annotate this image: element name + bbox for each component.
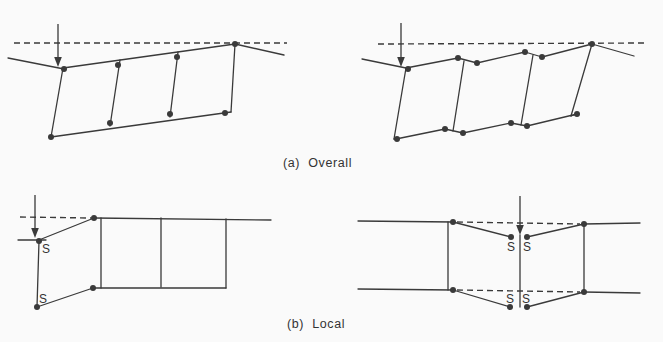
caption-local: (b) Local: [287, 317, 345, 331]
member-line: [571, 44, 592, 116]
member-line: [527, 224, 584, 237]
member-line: [51, 112, 231, 137]
hinge-label: S: [522, 292, 530, 306]
joint-dot: [91, 215, 97, 221]
joint-dot: [581, 289, 587, 295]
local-left-diagram: SS: [18, 195, 271, 310]
hinge-label: S: [523, 240, 531, 254]
member-line: [170, 52, 178, 117]
joint-dot: [589, 41, 595, 47]
joint-dot: [450, 219, 456, 225]
joint-dot: [61, 66, 67, 72]
member-line: [521, 55, 533, 125]
member-line: [453, 61, 464, 131]
joint-dot: [508, 120, 514, 126]
member-line: [527, 114, 577, 126]
member-line: [477, 52, 525, 63]
joint-dot: [107, 120, 113, 126]
joint-dot: [574, 111, 580, 117]
load-arrow-head: [397, 57, 405, 67]
member-line: [542, 44, 592, 57]
joint-dot: [115, 62, 121, 68]
load-arrow-head: [31, 228, 39, 238]
member-line: [39, 218, 94, 240]
load-arrow-head: [516, 225, 524, 235]
joint-dot: [450, 287, 456, 293]
joint-dot: [539, 54, 545, 60]
member-line: [358, 221, 453, 222]
joint-dot: [405, 66, 411, 72]
hinge-label: S: [506, 292, 514, 306]
joint-dot: [455, 55, 461, 61]
caption-overall: (a) Overall: [283, 156, 352, 170]
joint-dot: [174, 54, 180, 60]
reference-dashed-line: [20, 217, 91, 218]
member-line: [231, 44, 235, 112]
hinge-label: S: [42, 242, 50, 256]
joint-dot: [460, 130, 466, 136]
member-line: [453, 222, 511, 237]
member-line: [584, 292, 640, 293]
reference-dashed-line: [378, 43, 648, 44]
local-right-diagram: SSSS: [358, 196, 640, 310]
member-line: [94, 218, 271, 220]
joint-dot: [90, 285, 96, 291]
joint-dot: [522, 49, 528, 55]
joint-dot: [442, 126, 448, 132]
joint-dot: [48, 134, 54, 140]
member-line: [396, 129, 445, 139]
figure-canvas: SSSSSS: [0, 0, 663, 342]
joint-dot: [167, 111, 173, 117]
figure-page: SSSSSS (a) Overall (b) Local: [0, 0, 663, 342]
hinge-label: S: [39, 292, 47, 306]
member-line: [592, 44, 634, 56]
member-line: [394, 68, 406, 139]
member-line: [51, 68, 63, 137]
member-line: [63, 44, 235, 68]
joint-dot: [524, 123, 530, 129]
member-line: [235, 44, 284, 55]
member-line: [453, 290, 510, 307]
member-line: [584, 223, 640, 224]
reference-dashed-line: [457, 222, 580, 224]
overall-left-diagram: [8, 24, 287, 140]
joint-dot: [232, 41, 238, 47]
member-line: [463, 123, 511, 133]
load-arrow-head: [54, 57, 62, 67]
joint-dot: [581, 221, 587, 227]
overall-right-diagram: [362, 23, 648, 142]
member-line: [110, 60, 120, 126]
joint-dot: [394, 136, 400, 142]
member-line: [406, 58, 458, 68]
joint-dot: [474, 60, 480, 66]
member-line: [527, 292, 584, 307]
reference-dashed-line: [457, 290, 580, 292]
joint-dot: [222, 110, 228, 116]
member-line: [358, 289, 453, 290]
hinge-label: S: [507, 240, 515, 254]
